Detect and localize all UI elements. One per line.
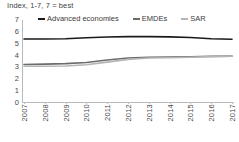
x-axis-labels: 2007200820092010201120122013201420152016…: [22, 104, 234, 140]
y-tick-label: 7: [15, 16, 19, 24]
x-tick-label: 2009: [62, 104, 71, 122]
line-chart: Index, 1-7, 7 = best Advanced economiesE…: [0, 0, 239, 142]
x-tick-label: 2017: [228, 104, 237, 122]
x-tick-label: 2016: [207, 104, 216, 122]
y-tick-label: 1: [15, 87, 19, 95]
plot-area: [22, 20, 234, 103]
x-tick-label: 2008: [41, 104, 50, 122]
x-tick-label: 2010: [82, 104, 91, 122]
y-tick-label: 6: [15, 28, 19, 36]
y-tick-label: 2: [15, 75, 19, 83]
series-lines: [22, 20, 234, 103]
y-tick-label: 4: [15, 52, 19, 60]
y-tick-label: 5: [15, 40, 19, 48]
x-tick-label: 2013: [145, 104, 154, 122]
x-tick-label: 2014: [166, 104, 175, 122]
x-tick-label: 2007: [20, 104, 29, 122]
x-tick-label: 2011: [103, 104, 112, 121]
series-line: [24, 37, 232, 40]
y-tick-label: 0: [15, 99, 19, 107]
y-tick-label: 3: [15, 63, 19, 71]
x-tick-label: 2012: [124, 104, 133, 122]
x-tick-label: 2015: [186, 104, 195, 122]
chart-title: Index, 1-7, 7 = best: [7, 1, 73, 10]
y-axis-labels: 76543210: [0, 20, 19, 103]
